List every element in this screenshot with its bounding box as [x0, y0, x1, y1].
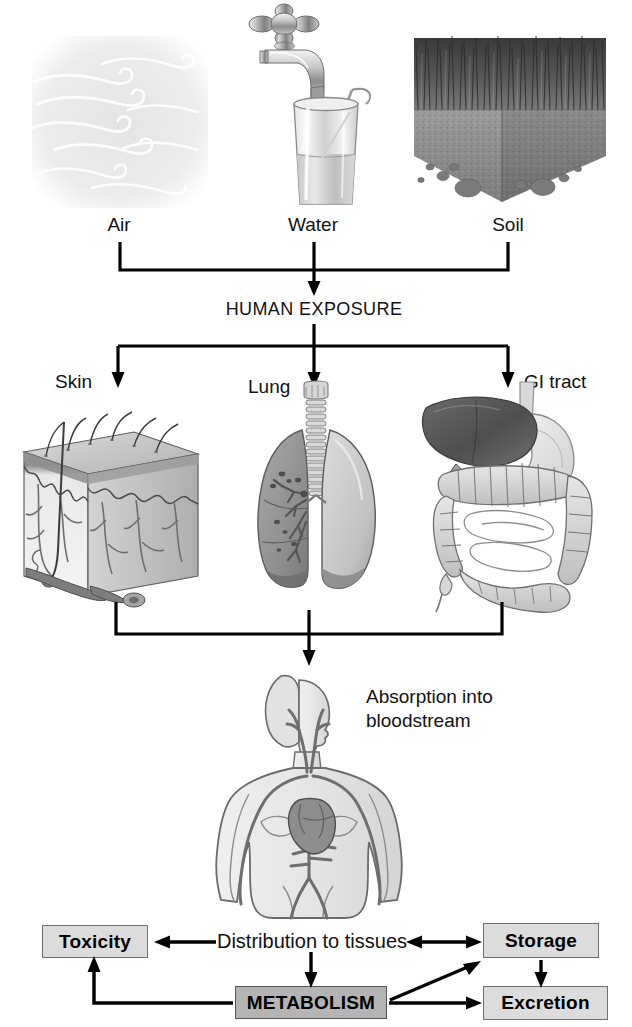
connector-routes-to-body [0, 600, 632, 670]
faucet-glass-icon [232, 8, 392, 208]
lungs-icon [232, 382, 404, 614]
wind-swirls-icon [32, 36, 208, 208]
connector-sources-to-exposure [0, 240, 632, 300]
human-body-circulatory-icon [203, 672, 415, 920]
exposure-pathway-diagram: Air Water Soil HUMAN EXPOSURE [0, 0, 632, 1027]
source-label-soil: Soil [492, 214, 524, 236]
soil-block-icon [410, 30, 610, 210]
route-label-skin: Skin [55, 371, 92, 393]
human-exposure-label: HUMAN EXPOSURE [226, 299, 403, 320]
source-label-water: Water [288, 214, 338, 236]
gi-tract-icon [420, 378, 610, 616]
source-label-air: Air [107, 214, 130, 236]
fate-arrows [0, 900, 632, 1027]
skin-cross-section-icon [16, 410, 206, 610]
